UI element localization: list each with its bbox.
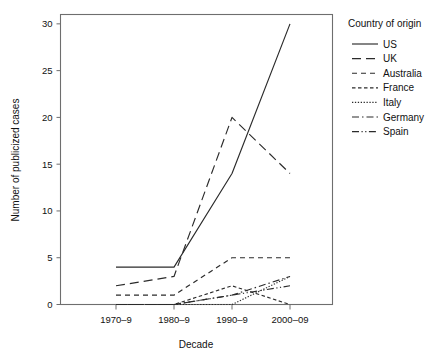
- x-tick-label: 1970–9: [100, 314, 132, 325]
- series-line-uk: [116, 117, 290, 285]
- legend: Country of origin USUKAustraliaFranceIta…: [348, 18, 424, 137]
- legend-title: Country of origin: [348, 18, 421, 29]
- x-tick-label: 1980–9: [158, 314, 190, 325]
- x-tick-label: 1990–9: [216, 314, 248, 325]
- line-chart-figure: 051015202530 1970–91980–91990–92000–09 N…: [0, 0, 442, 359]
- data-series-group: [116, 24, 290, 305]
- legend-label-spain: Spain: [383, 126, 409, 137]
- y-tick-label: 0: [47, 299, 52, 310]
- legend-label-australia: Australia: [383, 68, 422, 79]
- x-axis-title: Decade: [179, 339, 214, 350]
- x-tick-label: 2000–09: [272, 314, 309, 325]
- y-tick-label: 5: [47, 252, 52, 263]
- legend-label-france: France: [383, 82, 415, 93]
- y-axis: 051015202530: [42, 18, 61, 310]
- plot-frame: [61, 15, 333, 305]
- y-tick-label: 25: [42, 65, 53, 76]
- legend-label-italy: Italy: [383, 97, 401, 108]
- legend-label-us: US: [383, 39, 397, 50]
- y-tick-label: 10: [42, 205, 53, 216]
- x-axis: 1970–91980–91990–92000–09: [100, 305, 308, 325]
- legend-label-uk: UK: [383, 53, 397, 64]
- y-axis-title: Number of publicized cases: [10, 99, 21, 222]
- y-tick-label: 30: [42, 18, 53, 29]
- series-line-us: [116, 24, 290, 267]
- legend-label-germany: Germany: [383, 112, 424, 123]
- y-tick-label: 15: [42, 159, 53, 170]
- y-tick-label: 20: [42, 112, 53, 123]
